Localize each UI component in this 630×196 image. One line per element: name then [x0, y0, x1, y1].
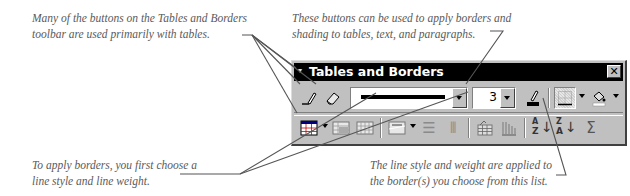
distribute-rows-icon: ☰: [422, 119, 435, 137]
split-cells-icon: [356, 120, 374, 136]
border-color-button[interactable]: [522, 87, 544, 109]
annotation-line: toolbar are used primarily with tables.: [32, 26, 247, 42]
line-weight-dropdown-arrow[interactable]: [500, 88, 515, 108]
merge-cells-icon: [332, 120, 350, 136]
sort-letter: A: [556, 126, 563, 136]
borders-icon: [557, 90, 573, 106]
annotation-line: Many of the buttons on the Tables and Bo…: [32, 10, 247, 26]
toolbar-row-1: 3: [296, 85, 621, 111]
insert-table-dropdown-arrow[interactable]: [322, 124, 328, 128]
distribute-columns-icon: ⫴: [450, 119, 456, 137]
separator: [524, 118, 526, 138]
sort-ascending-icon: A Z ↓: [532, 119, 550, 137]
annotation-borders-shading: These buttons can be used to apply borde…: [292, 10, 511, 42]
toolbar-row-2: ☰ ⫴ A Z ↓: [296, 115, 621, 141]
annotation-toolbar-tables: Many of the buttons on the Tables and Bo…: [32, 10, 247, 42]
sort-ascending-button[interactable]: A Z ↓: [530, 117, 552, 139]
line-weight-dropdown[interactable]: 3: [472, 87, 516, 109]
toolbar-menu-icon[interactable]: ▾: [298, 66, 302, 75]
callout-line: [242, 35, 296, 68]
merge-cells-button[interactable]: [330, 117, 352, 139]
down-arrow-icon: ↓: [541, 119, 553, 135]
toolbar-titlebar[interactable]: ▾ Tables and Borders ✕: [294, 63, 623, 81]
sort-letter: Z: [556, 117, 562, 126]
sort-descending-icon: Z A ↓: [556, 119, 574, 137]
line-weight-value: 3: [489, 90, 497, 104]
insert-table-button[interactable]: [298, 117, 320, 139]
borders-dropdown-arrow[interactable]: [579, 94, 585, 98]
sort-letter: Z: [532, 126, 539, 136]
annotation-line: line style and line weight.: [32, 173, 197, 189]
text-direction-icon: [500, 120, 518, 136]
annotation-line: The line style and weight are applied to: [370, 157, 552, 173]
toolbar-title: Tables and Borders: [309, 64, 444, 79]
align-top-icon: [388, 120, 406, 136]
annotation-borders-list: The line style and weight are applied to…: [370, 157, 552, 189]
borders-button[interactable]: [554, 87, 576, 109]
separator: [548, 88, 550, 108]
align-dropdown-arrow[interactable]: [410, 124, 416, 128]
shading-color-button[interactable]: [588, 87, 610, 109]
eraser-button[interactable]: [322, 87, 344, 109]
line-style-preview: [361, 95, 445, 99]
autosum-icon: Σ: [586, 119, 595, 137]
text-direction-button[interactable]: [498, 117, 520, 139]
close-button[interactable]: ✕: [607, 65, 621, 78]
annotation-line: These buttons can be used to apply borde…: [292, 10, 511, 26]
table-autoformat-button[interactable]: [474, 117, 496, 139]
annotation-line: the border(s) you choose from this list.: [370, 173, 552, 189]
separator: [380, 118, 382, 138]
sort-descending-button[interactable]: Z A ↓: [554, 117, 576, 139]
distribute-rows-button[interactable]: ☰: [418, 117, 440, 139]
line-style-dropdown-arrow[interactable]: [452, 88, 467, 108]
shading-dropdown-arrow[interactable]: [613, 94, 619, 98]
annotation-line: To apply borders, you first choose a: [32, 157, 197, 173]
eraser-icon: [324, 89, 342, 107]
pencil-icon: [300, 89, 318, 107]
table-autoformat-icon: [476, 120, 494, 136]
table-grid-icon: [300, 120, 318, 136]
line-style-dropdown[interactable]: [350, 87, 468, 109]
down-arrow-icon: ↓: [565, 119, 577, 135]
annotation-line: shading to tables, text, and paragraphs.: [292, 26, 511, 42]
distribute-columns-button[interactable]: ⫴: [442, 117, 464, 139]
annotation-line-style-weight: To apply borders, you first choose a lin…: [32, 157, 197, 189]
separator: [468, 118, 470, 138]
pen-color-icon: [524, 89, 542, 107]
draw-table-button[interactable]: [298, 87, 320, 109]
align-button[interactable]: [386, 117, 408, 139]
paint-bucket-icon: [590, 89, 608, 107]
split-cells-button[interactable]: [354, 117, 376, 139]
autosum-button[interactable]: Σ: [580, 117, 602, 139]
sort-letter: A: [532, 117, 538, 126]
tables-and-borders-toolbar: ▾ Tables and Borders ✕ 3: [291, 60, 627, 146]
